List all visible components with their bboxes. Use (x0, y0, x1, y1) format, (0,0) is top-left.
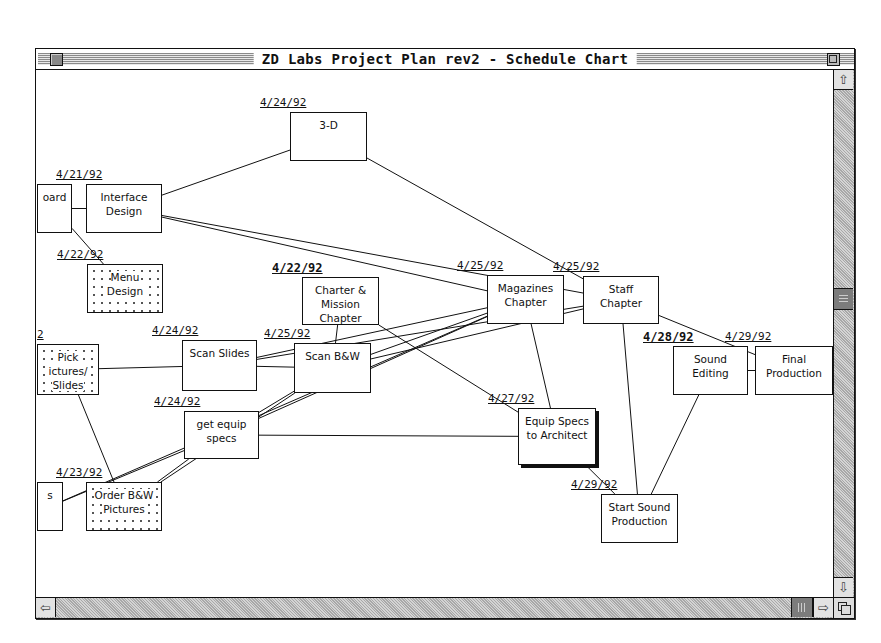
dependency-line (63, 316, 487, 501)
horizontal-scrollbar[interactable]: ⇦ ⇨ (36, 597, 833, 618)
title-bar[interactable]: ZD Labs Project Plan rev2 - Schedule Cha… (36, 49, 854, 70)
task-date-menu-design: 4/22/92 (57, 249, 103, 261)
task-box-pick-pictures[interactable]: Pick ictures/ Slides (37, 344, 99, 395)
task-label: Scan Slides (190, 347, 250, 359)
task-box-s-box[interactable]: s (37, 482, 63, 531)
task-box-magazines-chapter[interactable]: Magazines Chapter (487, 275, 564, 324)
dependency-line (623, 324, 637, 494)
task-date-magazines-chapter: 4/25/92 (457, 260, 503, 272)
task-label: Equip Specs to Architect (525, 415, 589, 441)
task-label: Sound Editing (692, 353, 729, 379)
task-box-start-sound-production[interactable]: Start Sound Production (601, 494, 678, 543)
task-label: 3-D (319, 119, 338, 131)
task-date-sound-editing: 4/28/92 (643, 331, 694, 343)
task-date-3d: 4/24/92 (260, 97, 306, 109)
task-label: Scan B&W (305, 350, 360, 362)
task-box-equip-specs-architect[interactable]: Equip Specs to Architect (518, 408, 596, 465)
close-box-icon[interactable] (50, 53, 63, 66)
dependency-line (99, 366, 182, 368)
task-box-order-bw-pictures[interactable]: Order B&W Pictures (86, 482, 162, 531)
arrow-right-icon[interactable]: ⇨ (813, 598, 833, 617)
task-date-get-equip-specs: 4/24/92 (154, 396, 200, 408)
arrow-down-icon[interactable]: ⇩ (834, 577, 853, 597)
task-label: Charter & Mission Chapter (315, 284, 366, 324)
vertical-scrollbar[interactable]: ⇧ ⇩ (833, 70, 854, 597)
vertical-scroll-thumb[interactable] (834, 288, 853, 310)
dependency-line (257, 366, 294, 367)
task-box-sound-editing[interactable]: Sound Editing (673, 346, 748, 395)
task-label: get equip specs (197, 418, 247, 444)
task-date-final-production: 4/29/92 (725, 331, 771, 343)
task-label: s (47, 489, 52, 501)
task-label: Interface Design (100, 191, 147, 217)
task-box-board[interactable]: oard (37, 184, 72, 233)
task-date-order-bw-pictures: 4/23/92 (56, 467, 102, 479)
resize-grow-box-icon[interactable] (833, 597, 854, 618)
arrow-left-icon[interactable]: ⇦ (36, 598, 56, 617)
dependency-line (371, 313, 487, 354)
task-box-charter-mission[interactable]: Charter & Mission Chapter (302, 277, 379, 325)
dependency-line (651, 395, 698, 494)
dependency-line (259, 391, 294, 412)
task-label: Staff Chapter (600, 283, 642, 309)
task-date-interface-design: 4/21/92 (56, 169, 102, 181)
task-date-scan-slides: 4/24/92 (152, 325, 198, 337)
task-box-final-production[interactable]: Final Production (755, 346, 833, 395)
task-box-get-equip-specs[interactable]: get equip specs (184, 411, 259, 459)
task-box-interface-design[interactable]: Interface Design (86, 184, 162, 233)
arrow-up-icon[interactable]: ⇧ (834, 70, 853, 90)
task-date-charter-mission: 4/22/92 (272, 262, 323, 274)
task-label: Magazines Chapter (498, 282, 554, 308)
task-box-scan-bw[interactable]: Scan B&W (294, 343, 371, 393)
task-box-3d[interactable]: 3-D (290, 112, 367, 161)
task-date-start-sound-production: 4/29/92 (571, 479, 617, 491)
task-date-scan-bw: 4/25/92 (264, 328, 310, 340)
task-label: oard (43, 191, 67, 203)
task-box-menu-design[interactable]: Menu Design (87, 264, 163, 313)
task-label: Pick ictures/ Slides (48, 351, 87, 391)
zoom-box-icon[interactable] (827, 53, 840, 66)
task-box-staff-chapter[interactable]: Staff Chapter (583, 276, 659, 324)
horizontal-scroll-thumb[interactable] (791, 598, 813, 617)
chart-canvas[interactable]: oardInterface Design4/21/923-D4/24/92Men… (36, 70, 833, 597)
task-label: Menu Design (107, 271, 143, 297)
schedule-chart-window: ZD Labs Project Plan rev2 - Schedule Cha… (35, 48, 855, 619)
task-date-staff-chapter: 4/25/92 (553, 261, 599, 273)
window-title: ZD Labs Project Plan rev2 - Schedule Cha… (254, 50, 637, 68)
task-label: Start Sound Production (608, 501, 670, 527)
task-label: Order B&W Pictures (95, 489, 154, 515)
task-box-scan-slides[interactable]: Scan Slides (182, 340, 257, 391)
task-date-equip-specs-architect: 4/27/92 (488, 393, 534, 405)
dependency-line (162, 150, 290, 195)
task-date-pick-pictures: 2 (37, 329, 44, 341)
dependency-line (259, 435, 518, 436)
task-label: Final Production (766, 353, 822, 379)
dependency-line (157, 459, 188, 482)
